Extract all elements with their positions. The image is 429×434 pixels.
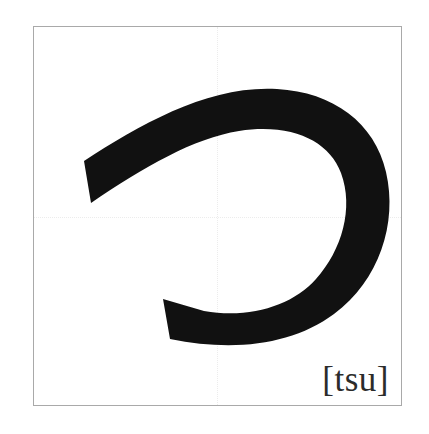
hiragana-glyph-tsu bbox=[34, 27, 401, 405]
tsu-stroke-path bbox=[84, 89, 390, 345]
character-card-frame: [tsu] bbox=[33, 26, 402, 406]
romanization-label: [tsu] bbox=[322, 362, 389, 397]
